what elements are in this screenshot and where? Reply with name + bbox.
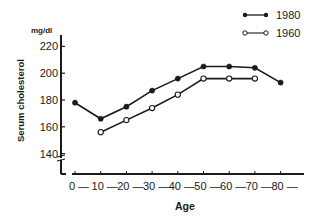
x-axis: 0 —10 —20 —30 —40 —50 —60 —70 —80 —: [69, 171, 304, 192]
open-circle-marker-icon: [124, 118, 129, 123]
legend-label: 1980: [276, 9, 300, 21]
open-circle-marker-icon: [252, 76, 257, 81]
x-tick-label: 40 —: [169, 180, 195, 192]
filled-circle-marker-icon: [98, 116, 103, 121]
x-tick-label: 50 —: [194, 180, 220, 192]
y-axis: 140160180200220: [40, 35, 66, 174]
x-tick-label: 30 —: [143, 180, 169, 192]
x-tick-label: 60 —: [220, 180, 246, 192]
y-tick-label: 180: [40, 94, 58, 106]
line-chart: mg/dl Serum cholesterol 140160180200220 …: [0, 0, 320, 220]
x-tick-label: 70 —: [246, 180, 272, 192]
x-tick-label: 80 —: [271, 180, 297, 192]
legend-item-1960: 1960: [243, 27, 301, 39]
series-line: [101, 79, 255, 133]
y-tick-label: 160: [40, 121, 58, 133]
open-circle-marker-icon: [150, 105, 155, 110]
x-tick-label: 10 —: [92, 180, 118, 192]
filled-circle-marker-icon: [72, 100, 77, 105]
y-axis-unit: mg/dl: [31, 26, 52, 35]
legend-label: 1960: [276, 27, 300, 39]
open-circle-marker-icon: [201, 76, 206, 81]
filled-circle-marker-icon: [264, 13, 268, 17]
open-circle-marker-icon: [227, 76, 232, 81]
y-tick-label: 220: [40, 40, 58, 52]
open-circle-marker-icon: [98, 130, 103, 135]
filled-circle-marker-icon: [243, 13, 247, 17]
legend: 1980 1960: [243, 9, 301, 39]
y-axis-title: Serum cholesterol: [15, 59, 26, 142]
open-circle-marker-icon: [243, 31, 247, 35]
x-axis-title: Age: [175, 200, 195, 212]
open-circle-marker-icon: [264, 31, 268, 35]
filled-circle-marker-icon: [278, 80, 283, 85]
filled-circle-marker-icon: [124, 104, 129, 109]
series-1960: [98, 76, 257, 135]
x-tick-label: 0 —: [69, 180, 89, 192]
x-tick-label: 20 —: [117, 180, 143, 192]
filled-circle-marker-icon: [227, 64, 232, 69]
open-circle-marker-icon: [175, 92, 180, 97]
filled-circle-marker-icon: [175, 76, 180, 81]
y-tick-label: 200: [40, 67, 58, 79]
series-layer: [72, 64, 283, 135]
filled-circle-marker-icon: [150, 88, 155, 93]
filled-circle-marker-icon: [201, 64, 206, 69]
filled-circle-marker-icon: [252, 65, 257, 70]
legend-item-1980: 1980: [243, 9, 301, 21]
y-tick-label: 140: [40, 148, 58, 160]
